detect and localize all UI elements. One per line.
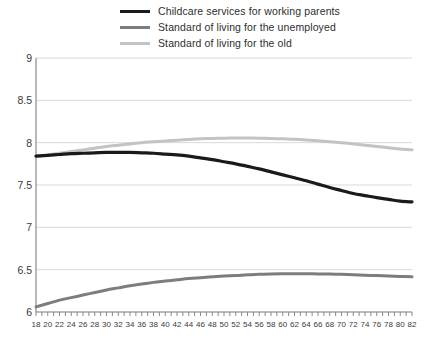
x-tick-label: 56 bbox=[255, 320, 264, 329]
x-tick-label: 82 bbox=[408, 320, 417, 329]
x-tick-label: 78 bbox=[384, 320, 393, 329]
x-tick-marks bbox=[36, 312, 412, 316]
x-tick-label: 38 bbox=[149, 320, 158, 329]
legend-label: Standard of living for the old bbox=[158, 37, 292, 49]
x-tick-label: 30 bbox=[102, 320, 111, 329]
y-tick-label: 9 bbox=[2, 53, 32, 64]
x-tick-label: 36 bbox=[137, 320, 146, 329]
x-tick-label: 70 bbox=[337, 320, 346, 329]
y-tick-label: 7.5 bbox=[2, 180, 32, 191]
y-axis: 98.587.576.56 bbox=[0, 58, 32, 312]
x-tick-label: 24 bbox=[67, 320, 76, 329]
x-tick-label: 80 bbox=[396, 320, 405, 329]
legend-swatch-old bbox=[120, 42, 150, 45]
plot-svg bbox=[36, 58, 412, 312]
x-tick-label: 20 bbox=[43, 320, 52, 329]
x-tick-label: 62 bbox=[290, 320, 299, 329]
legend-item: Childcare services for working parents bbox=[120, 4, 420, 18]
x-tick-label: 60 bbox=[278, 320, 287, 329]
y-tick-label: 8.5 bbox=[2, 95, 32, 106]
plot-area bbox=[36, 58, 412, 312]
legend-swatch-childcare bbox=[120, 10, 150, 13]
y-tick-label: 6.5 bbox=[2, 265, 32, 276]
x-tick-label: 48 bbox=[208, 320, 217, 329]
legend-item: Standard of living for the old bbox=[120, 36, 420, 50]
y-tick-label: 8 bbox=[2, 138, 32, 149]
data-series bbox=[36, 138, 412, 307]
x-tick-label: 68 bbox=[325, 320, 334, 329]
legend-label: Childcare services for working parents bbox=[158, 5, 340, 17]
x-axis: 1820222426283032343638404244464850525456… bbox=[36, 320, 412, 334]
y-tick-label: 7 bbox=[2, 222, 32, 233]
x-tick-label: 76 bbox=[372, 320, 381, 329]
x-tick-label: 26 bbox=[79, 320, 88, 329]
x-tick-label: 44 bbox=[184, 320, 193, 329]
x-tick-label: 54 bbox=[243, 320, 252, 329]
legend-item: Standard of living for the unemployed bbox=[120, 20, 420, 34]
x-tick-label: 46 bbox=[196, 320, 205, 329]
y-tick-label: 6 bbox=[2, 307, 32, 318]
x-tick-label: 18 bbox=[32, 320, 41, 329]
x-tick-label: 72 bbox=[349, 320, 358, 329]
series-line bbox=[36, 152, 412, 202]
chart-legend: Childcare services for working parents S… bbox=[120, 4, 420, 52]
legend-label: Standard of living for the unemployed bbox=[158, 21, 336, 33]
series-line bbox=[36, 274, 412, 307]
x-tick-label: 34 bbox=[126, 320, 135, 329]
x-tick-label: 22 bbox=[55, 320, 64, 329]
x-tick-label: 42 bbox=[173, 320, 182, 329]
x-tick-label: 64 bbox=[302, 320, 311, 329]
x-tick-label: 52 bbox=[231, 320, 240, 329]
x-tick-label: 40 bbox=[161, 320, 170, 329]
x-tick-label: 58 bbox=[267, 320, 276, 329]
x-tick-label: 74 bbox=[361, 320, 370, 329]
legend-swatch-unemployed bbox=[120, 26, 150, 29]
x-tick-label: 32 bbox=[114, 320, 123, 329]
x-tick-label: 50 bbox=[220, 320, 229, 329]
x-tick-label: 28 bbox=[90, 320, 99, 329]
line-chart: Childcare services for working parents S… bbox=[0, 0, 425, 347]
x-tick-label: 66 bbox=[314, 320, 323, 329]
